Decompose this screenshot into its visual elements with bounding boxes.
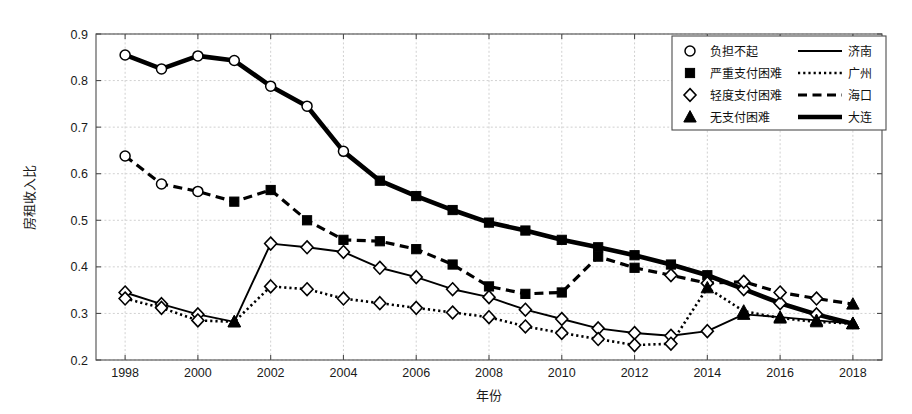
- marker-circle-open: [193, 51, 203, 61]
- legend-city-label: 海口: [848, 88, 872, 103]
- legend-city-label: 广州: [848, 67, 872, 81]
- x-tick-label: 2014: [693, 366, 721, 380]
- legend-city-label: 济南: [848, 44, 872, 59]
- marker-square-filled: [448, 260, 457, 269]
- y-tick-label: 0.6: [71, 167, 88, 181]
- y-tick-label: 0.3: [71, 307, 88, 321]
- marker-circle-open: [157, 64, 167, 74]
- x-tick-label: 2008: [475, 366, 503, 380]
- marker-square-filled: [630, 251, 639, 260]
- y-tick-label: 0.9: [71, 28, 88, 42]
- marker-circle-open: [193, 186, 203, 196]
- marker-square-filled: [302, 216, 311, 225]
- marker-square-filled: [339, 235, 348, 244]
- marker-square-filled: [557, 288, 566, 297]
- marker-circle-open: [266, 81, 276, 91]
- marker-square-filled: [521, 226, 530, 235]
- marker-circle-open: [338, 146, 348, 156]
- marker-square-filled: [594, 243, 603, 252]
- marker-square-filled: [375, 237, 384, 246]
- marker-square-filled: [685, 68, 694, 77]
- marker-square-filled: [557, 235, 566, 244]
- rent-income-ratio-line-chart: 1998200020022004200620082010201220142016…: [0, 0, 912, 414]
- marker-square-filled: [594, 252, 603, 261]
- marker-square-filled: [630, 263, 639, 272]
- marker-square-filled: [230, 197, 239, 206]
- marker-circle-open: [302, 101, 312, 111]
- legend-marker-label: 严重支付困难: [710, 67, 782, 81]
- y-tick-label: 0.2: [71, 354, 88, 368]
- y-tick-label: 0.4: [71, 260, 88, 274]
- x-tick-label: 1998: [111, 366, 139, 380]
- marker-square-filled: [484, 218, 493, 227]
- y-tick-label: 0.5: [71, 214, 88, 228]
- marker-circle-open: [685, 46, 695, 56]
- x-tick-label: 2000: [184, 366, 212, 380]
- marker-circle-open: [120, 50, 130, 60]
- legend-marker-label: 无支付困难: [710, 111, 770, 125]
- x-tick-label: 2004: [330, 366, 358, 380]
- marker-circle-open: [120, 151, 130, 161]
- legend-marker-label: 轻度支付困难: [710, 88, 782, 103]
- chart-legend: 负担不起严重支付困难轻度支付困难无支付困难济南广州海口大连: [672, 36, 886, 130]
- marker-square-filled: [266, 185, 275, 194]
- chart-figure: 1998200020022004200620082010201220142016…: [0, 0, 912, 414]
- x-tick-label: 2002: [257, 366, 285, 380]
- marker-square-filled: [375, 176, 384, 185]
- x-tick-label: 2018: [839, 366, 867, 380]
- x-tick-label: 2010: [548, 366, 576, 380]
- marker-circle-open: [229, 56, 239, 66]
- x-tick-label: 2012: [621, 366, 649, 380]
- marker-square-filled: [412, 191, 421, 200]
- y-axis-title: 房租收入比: [22, 165, 37, 230]
- x-tick-label: 2006: [402, 366, 430, 380]
- legend-marker-label: 负担不起: [710, 45, 758, 59]
- marker-circle-open: [157, 179, 167, 189]
- x-tick-label: 2016: [766, 366, 794, 380]
- legend-city-label: 大连: [848, 110, 872, 125]
- marker-square-filled: [521, 289, 530, 298]
- x-axis-title: 年份: [476, 388, 502, 403]
- marker-square-filled: [448, 205, 457, 214]
- marker-square-filled: [412, 245, 421, 254]
- y-tick-label: 0.7: [71, 121, 88, 135]
- y-tick-label: 0.8: [71, 74, 88, 88]
